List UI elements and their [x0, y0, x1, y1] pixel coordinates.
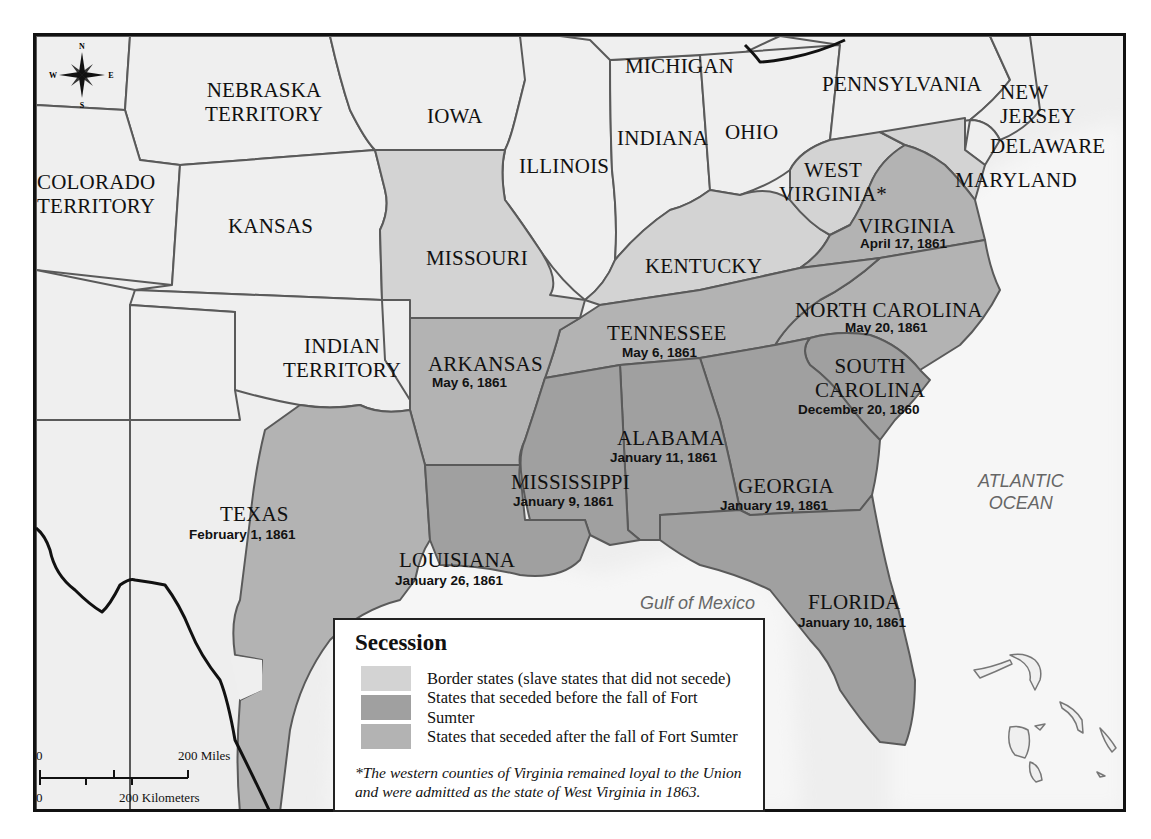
- scale-km-label: 200 Kilometers: [119, 790, 200, 806]
- date-virginia: April 17, 1861: [860, 236, 947, 252]
- label-north-carolina: NORTH CAROLINA: [795, 298, 983, 322]
- label-tennessee: TENNESSEE: [607, 321, 727, 345]
- date-arkansas: May 6, 1861: [432, 375, 507, 391]
- compass-w: W: [49, 71, 57, 80]
- date-georgia: January 19, 1861: [720, 498, 828, 514]
- compass-rose-icon: N S W E: [47, 40, 117, 110]
- label-nebraska-territory: NEBRASKA TERRITORY: [205, 78, 323, 126]
- label-south-carolina: SOUTH CAROLINA: [815, 354, 925, 402]
- label-gulf-of-mexico: Gulf of Mexico: [640, 592, 755, 614]
- label-west-virginia: WEST VIRGINIA*: [779, 158, 887, 206]
- label-kansas: KANSAS: [228, 214, 313, 238]
- date-north-carolina: May 20, 1861: [845, 320, 928, 336]
- region-panhandle-west: [130, 305, 240, 420]
- label-mississippi: MISSISSIPPI: [511, 470, 630, 494]
- legend-swatch-border: [361, 666, 411, 691]
- scale-miles-zero: 0: [36, 748, 43, 764]
- date-louisiana: January 26, 1861: [395, 573, 503, 589]
- label-florida: FLORIDA: [808, 590, 900, 614]
- label-ohio: OHIO: [725, 120, 778, 144]
- legend-title: Secession: [355, 630, 749, 656]
- label-illinois: ILLINOIS: [519, 154, 609, 178]
- legend-item-before-sumter: States that seceded before the fall of F…: [361, 693, 749, 722]
- compass-n: N: [79, 42, 85, 51]
- label-indiana: INDIANA: [617, 126, 708, 150]
- label-virginia: VIRGINIA: [858, 214, 955, 238]
- label-pennsylvania: PENNSYLVANIA: [822, 72, 982, 96]
- label-iowa: IOWA: [427, 104, 483, 128]
- label-missouri: MISSOURI: [426, 246, 528, 270]
- label-atlantic-ocean: ATLANTIC OCEAN: [978, 470, 1064, 514]
- label-arkansas: ARKANSAS: [428, 352, 543, 376]
- label-delaware: DELAWARE: [990, 134, 1105, 158]
- label-indian-territory: INDIAN TERRITORY: [283, 334, 401, 382]
- date-alabama: January 11, 1861: [610, 450, 717, 466]
- label-colorado-territory: COLORADO TERRITORY: [37, 170, 155, 218]
- legend-swatch-after: [361, 724, 411, 749]
- label-maryland: MARYLAND: [955, 168, 1077, 192]
- label-michigan: MICHIGAN: [625, 54, 734, 78]
- date-south-carolina: December 20, 1860: [798, 402, 920, 418]
- scale-bar: 0 200 Miles 0 200 Kilometers: [33, 740, 233, 812]
- date-texas: February 1, 1861: [189, 527, 296, 543]
- label-new-jersey: NEW JERSEY: [1000, 80, 1076, 128]
- scale-km-zero: 0: [36, 790, 43, 806]
- region-new-mexico: [36, 270, 135, 420]
- label-georgia: GEORGIA: [738, 474, 834, 498]
- legend-swatch-before: [361, 695, 411, 720]
- label-alabama: ALABAMA: [617, 426, 725, 450]
- date-tennessee: May 6, 1861: [622, 345, 697, 361]
- legend-item-after-sumter: States that seceded after the fall of Fo…: [361, 722, 749, 751]
- label-kentucky: KENTUCKY: [645, 254, 762, 278]
- label-texas: TEXAS: [220, 502, 289, 526]
- date-mississippi: January 9, 1861: [513, 494, 614, 510]
- label-louisiana: LOUISIANA: [399, 548, 515, 572]
- scale-miles-label: 200 Miles: [178, 748, 230, 764]
- compass-s: S: [80, 101, 85, 110]
- legend-footnote: *The western counties of Virginia remain…: [355, 763, 749, 801]
- legend: Secession Border states (slave states th…: [333, 618, 765, 812]
- compass-e: E: [108, 71, 113, 80]
- date-florida: January 10, 1861: [798, 615, 906, 631]
